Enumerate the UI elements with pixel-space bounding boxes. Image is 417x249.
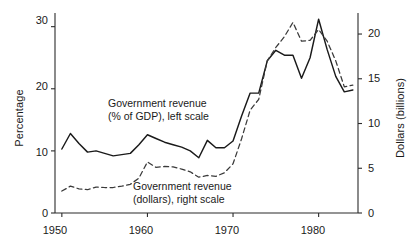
percent-series-annotation-line2: (% of GDP), left scale	[108, 110, 209, 123]
x-tick-label-1970: 1970	[205, 224, 249, 236]
y-tick-label-right-5: 5	[368, 162, 402, 174]
figure-container: Percentage Dollars (billions) 30 20 10 0…	[0, 0, 417, 249]
x-tick-label-1960: 1960	[119, 224, 163, 236]
y-tick-label-right-15: 15	[368, 72, 402, 84]
y-tick-label-left-30: 30	[14, 14, 48, 26]
x-tick-label-1950: 1950	[33, 224, 77, 236]
y-tick-label-left-0: 0	[14, 207, 48, 219]
x-tick-label-1980: 1980	[291, 224, 335, 236]
dollars-series-annotation-line1: Government revenue	[133, 180, 232, 193]
y-tick-label-right-10: 10	[368, 117, 402, 129]
percent-series-annotation-line1: Government revenue	[108, 97, 209, 110]
y-tick-label-right-20: 20	[368, 27, 402, 39]
dollars-series-annotation-line2: (dollars), right scale	[133, 193, 232, 206]
y-tick-label-right-0: 0	[368, 207, 402, 219]
percent-series-annotation: Government revenue (% of GDP), left scal…	[108, 97, 209, 123]
y-tick-label-left-10: 10	[14, 146, 48, 158]
y-tick-label-left-20: 20	[14, 80, 48, 92]
dollars-series-annotation: Government revenue (dollars), right scal…	[133, 180, 232, 206]
plot-svg	[0, 0, 417, 249]
